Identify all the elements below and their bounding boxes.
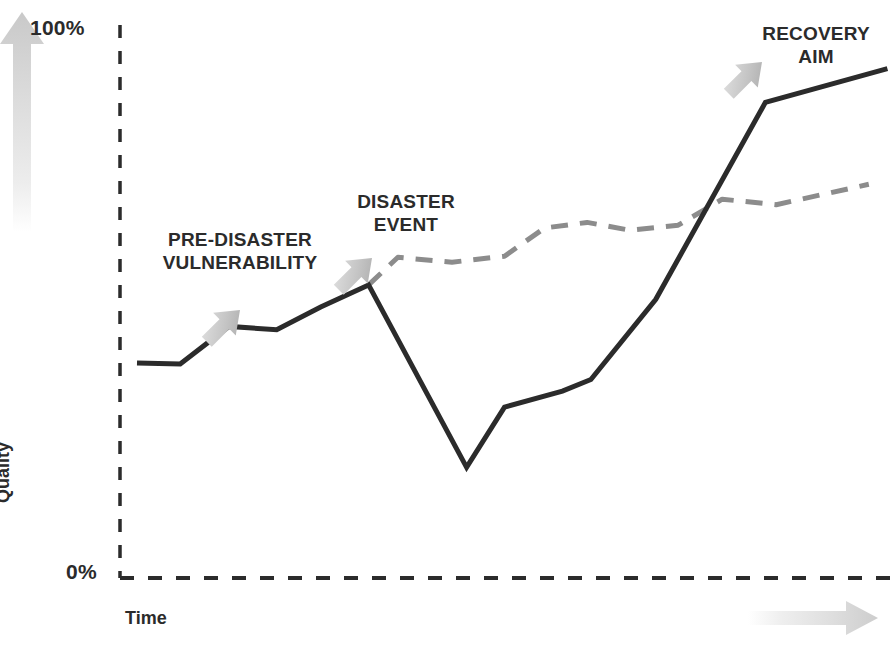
x-axis-arrow-icon [748, 601, 878, 635]
annotation-recovery-aim-line2: AIM [744, 45, 888, 68]
annotation-pre-disaster-vulnerability: PRE-DISASTER VULNERABILITY [150, 228, 330, 274]
annotation-recovery-aim-line1: RECOVERY [744, 22, 888, 45]
chart-canvas [0, 0, 896, 652]
annotation-pre-disaster-line1: PRE-DISASTER [150, 228, 330, 251]
annotation-disaster-event-line1: DISASTER [337, 190, 475, 213]
y-axis-arrow-icon [0, 12, 44, 232]
annotation-pre-disaster-line2: VULNERABILITY [150, 251, 330, 274]
y-axis-title: Quality [0, 442, 14, 503]
y-axis-min-tick-label: 0% [66, 560, 97, 584]
annotation-disaster-event-line2: EVENT [337, 213, 475, 236]
x-axis-title: Time [125, 608, 167, 629]
y-axis-max-tick-label: 100% [30, 16, 85, 40]
annotation-disaster-event: DISASTER EVENT [337, 190, 475, 236]
resilience-recovery-chart: 100% 0% Quality Time PRE-DISASTER VULNER… [0, 0, 896, 652]
annotation-recovery-aim: RECOVERY AIM [744, 22, 888, 68]
